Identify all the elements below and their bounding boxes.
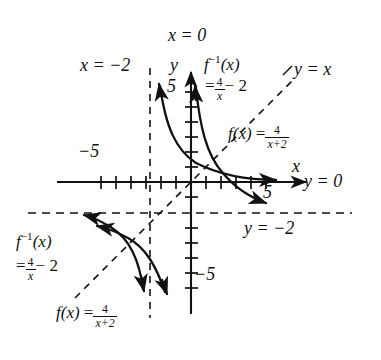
line-y-equals-x [75,81,292,298]
label-y-equals-x: y = x [294,60,331,79]
f-inverse-eq-lower: = [16,256,26,275]
f-inverse-sup-upper: −1 [209,53,221,65]
curve-finv-upper-branch-arrow-top [195,86,196,100]
label-tick-y-5: 5 [167,77,176,96]
label-f-bottom: f(x) =4x+2 [56,303,117,330]
f-arg-bottom: (x) [61,303,80,322]
f-inverse-num-lower: 4 [26,256,36,269]
f-num-bottom: 4 [93,303,116,316]
label-f-inverse-lower: f−1(x) [16,231,52,251]
f-den-middle: x+2 [265,137,288,151]
label-tick-x-neg5: −5 [78,142,99,161]
curve-f-lower-branch-arrow-bottom [141,276,144,291]
f-num-middle: 4 [265,124,288,137]
label-axis-y: y [170,56,178,75]
f-inverse-tail-lower: − 2 [36,256,58,275]
f-inverse-den-lower: x [26,269,36,283]
label-f-inverse-upper-equation: =4x− 2 [205,76,247,103]
f-arg-middle: (x) [233,124,252,143]
f-inverse-fraction-lower: 4x [26,256,36,283]
f-inverse-tail-upper: − 2 [225,76,247,95]
label-x-equals-0: x = 0 [168,26,206,45]
label-x-equals-neg2: x = −2 [80,56,130,75]
curve-f-lower-branch [84,215,143,289]
f-eq-bottom: = [84,303,94,322]
curve-finv-lower-branch [97,226,165,292]
f-inverse-arg-lower: (x) [33,232,52,251]
label-axis-x: x [292,157,300,176]
f-inverse-den-upper: x [215,89,225,103]
f-inverse-sup-lower: −1 [21,230,33,242]
f-fraction-middle: 4x+2 [265,124,288,151]
f-den-bottom: x+2 [93,316,116,330]
label-f-inverse-upper: f−1(x) [204,54,240,74]
label-y-equals-0: y = 0 [304,172,342,191]
f-fraction-bottom: 4x+2 [93,303,116,330]
label-f-middle: f(x) =4x+2 [228,124,289,151]
label-tick-x-5: 5 [263,183,272,202]
f-inverse-fraction-upper: 4x [215,76,225,103]
f-inverse-arg-upper: (x) [221,55,240,74]
f-inverse-eq-upper: = [205,76,215,95]
leader-y-equals-x [283,66,292,75]
f-eq-middle: = [256,124,266,143]
label-f-inverse-lower-equation: =4x− 2 [16,256,58,283]
function-inverse-graph: x = 0 x = −2 y 5 f−1(x) =4x− 2 y = x f(x… [0,0,381,360]
label-tick-y-neg5: −5 [194,265,215,284]
f-inverse-num-upper: 4 [215,76,225,89]
label-y-equals-neg2: y = −2 [244,219,294,238]
